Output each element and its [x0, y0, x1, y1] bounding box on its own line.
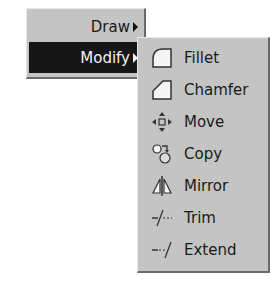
submenu-item-fillet[interactable]: Fillet	[138, 42, 268, 74]
submenu-item-label: Move	[184, 113, 224, 131]
menu-item-draw[interactable]: Draw	[29, 11, 142, 42]
submenu-item-mirror[interactable]: Mirror	[138, 170, 268, 202]
main-menu: Draw Modify	[26, 8, 146, 79]
modify-submenu: Fillet Chamfer Move Copy Mirror Trim E	[137, 37, 270, 273]
submenu-item-copy[interactable]: Copy	[138, 138, 268, 170]
submenu-item-label: Mirror	[184, 177, 228, 195]
submenu-item-label: Trim	[184, 209, 216, 227]
menu-item-label: Modify	[80, 49, 130, 67]
submenu-item-trim[interactable]: Trim	[138, 202, 268, 234]
mirror-icon	[148, 174, 176, 198]
submenu-item-label: Fillet	[184, 49, 219, 67]
chamfer-icon	[148, 78, 176, 102]
submenu-item-chamfer[interactable]: Chamfer	[138, 74, 268, 106]
extend-icon	[148, 238, 176, 262]
submenu-item-extend[interactable]: Extend	[138, 234, 268, 266]
submenu-item-label: Extend	[184, 241, 237, 259]
trim-icon	[148, 206, 176, 230]
submenu-item-move[interactable]: Move	[138, 106, 268, 138]
submenu-arrow-icon	[133, 22, 138, 32]
menu-item-label: Draw	[91, 18, 130, 36]
move-icon	[148, 110, 176, 134]
menu-item-modify[interactable]: Modify	[29, 42, 142, 73]
submenu-item-label: Chamfer	[184, 81, 248, 99]
fillet-icon	[148, 46, 176, 70]
submenu-item-label: Copy	[184, 145, 222, 163]
copy-icon	[148, 142, 176, 166]
